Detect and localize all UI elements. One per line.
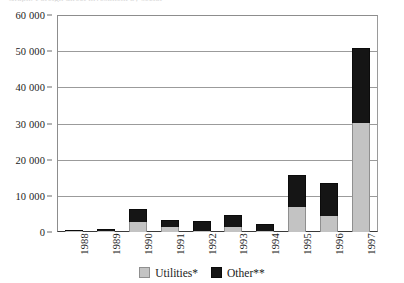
legend-entry: Other** — [211, 267, 265, 279]
x-tick-label: 1995 — [302, 233, 313, 255]
bar-stack — [129, 209, 147, 232]
bar-stack — [224, 215, 242, 232]
bar-group — [281, 15, 313, 232]
stacked-bar-chart: Graph: Foreign direct investment by sect… — [0, 0, 404, 283]
bar-segment-other — [256, 224, 274, 231]
bar-stack — [320, 183, 338, 232]
y-tick-mark — [47, 123, 52, 124]
y-tick-label: 0 — [40, 227, 45, 238]
y-tick-mark — [47, 87, 52, 88]
bar-stack — [161, 220, 179, 232]
bar-segment-utilities — [65, 231, 83, 232]
x-tick-label: 1992 — [207, 233, 218, 255]
x-tick-label: 1988 — [79, 233, 90, 255]
y-tick-label: 10 000 — [16, 190, 45, 201]
legend-label: Other** — [227, 267, 265, 279]
y-tick-mark — [47, 195, 52, 196]
bar-segment-other — [320, 183, 338, 216]
bars-layer — [58, 15, 377, 232]
bar-segment-utilities — [288, 207, 306, 232]
x-tick-label: 1991 — [175, 233, 186, 255]
y-tick-label: 50 000 — [16, 46, 45, 57]
x-tick-label: 1996 — [334, 233, 345, 255]
bar-segment-other — [161, 220, 179, 227]
bar-segment-utilities — [161, 227, 179, 232]
bar-stack — [65, 230, 83, 232]
bar-segment-utilities — [320, 216, 338, 232]
bar-group — [122, 15, 154, 232]
bar-group — [249, 15, 281, 232]
x-tick-label: 1989 — [111, 233, 122, 255]
clipped-title-text: Graph: Foreign direct investment by sect… — [8, 0, 268, 2]
bar-group — [345, 15, 377, 232]
y-tick-mark — [47, 15, 52, 16]
x-tick-label: 1997 — [366, 233, 377, 255]
y-tick-label: 40 000 — [16, 82, 45, 93]
x-tick-label: 1990 — [143, 233, 154, 255]
bar-group — [154, 15, 186, 232]
bar-segment-utilities — [224, 227, 242, 232]
bar-group — [90, 15, 122, 232]
bar-segment-utilities — [97, 231, 115, 232]
bar-segment-other — [193, 221, 211, 231]
legend-swatch-other — [211, 267, 222, 278]
bar-group — [186, 15, 218, 232]
y-tick-mark — [47, 232, 52, 233]
x-tick-label: 1994 — [270, 233, 281, 255]
bar-segment-utilities — [193, 231, 211, 232]
y-tick-mark — [47, 159, 52, 160]
x-axis: 1988198919901991199219931994199519961997 — [58, 233, 377, 263]
legend-entry: Utilities* — [139, 267, 198, 279]
y-tick-label: 20 000 — [16, 154, 45, 165]
bar-segment-utilities — [352, 123, 370, 232]
legend-label: Utilities* — [155, 267, 198, 279]
y-tick-label: 60 000 — [16, 10, 45, 21]
legend-swatch-utilities — [139, 267, 150, 278]
bar-segment-utilities — [256, 231, 274, 232]
y-tick-mark — [47, 51, 52, 52]
bar-segment-other — [224, 215, 242, 226]
bar-stack — [288, 175, 306, 232]
bar-segment-other — [288, 175, 306, 208]
bar-segment-other — [129, 209, 147, 222]
chart-legend: Utilities*Other** — [0, 264, 404, 281]
bar-stack — [352, 48, 370, 232]
bar-segment-utilities — [129, 222, 147, 232]
y-tick-label: 30 000 — [16, 118, 45, 129]
bar-stack — [193, 221, 211, 232]
bar-group — [218, 15, 250, 232]
bar-stack — [256, 224, 274, 232]
bar-stack — [97, 229, 115, 232]
bar-segment-other — [352, 48, 370, 123]
bar-group — [313, 15, 345, 232]
bar-group — [58, 15, 90, 232]
y-axis: 010 00020 00030 00040 00050 00060 000 — [0, 15, 52, 232]
x-tick-label: 1993 — [238, 233, 249, 255]
